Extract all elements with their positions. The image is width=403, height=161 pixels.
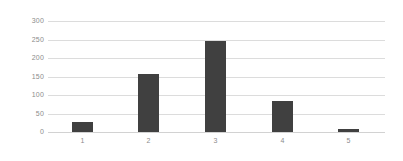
- bar-category-4[interactable]: [272, 101, 293, 132]
- bar-category-3[interactable]: [205, 41, 226, 132]
- bar-category-5[interactable]: [338, 129, 359, 132]
- bar-chart: 300 250 200 150 100 50 0 1 2 3 4 5: [0, 0, 403, 161]
- bars-layer: [48, 21, 385, 132]
- x-axis-tick-labels: 1 2 3 4 5: [48, 136, 385, 150]
- y-tick-label: 250: [2, 36, 44, 44]
- y-tick-label: 300: [2, 17, 44, 25]
- y-tick-label: 200: [2, 54, 44, 62]
- y-tick-label: 100: [2, 91, 44, 99]
- y-tick-label: 150: [2, 73, 44, 81]
- x-tick-label-1: 1: [63, 136, 103, 145]
- bar-category-2[interactable]: [138, 74, 159, 132]
- x-tick-label-4: 4: [263, 136, 303, 145]
- y-tick-label: 50: [2, 110, 44, 118]
- y-tick-label: 0: [2, 128, 44, 136]
- x-tick-label-5: 5: [329, 136, 369, 145]
- x-tick-label-2: 2: [129, 136, 169, 145]
- bar-category-1[interactable]: [72, 122, 93, 132]
- x-tick-label-3: 3: [196, 136, 236, 145]
- y-axis-tick-labels: 300 250 200 150 100 50 0: [0, 21, 44, 132]
- gridline-0-baseline: [48, 132, 385, 133]
